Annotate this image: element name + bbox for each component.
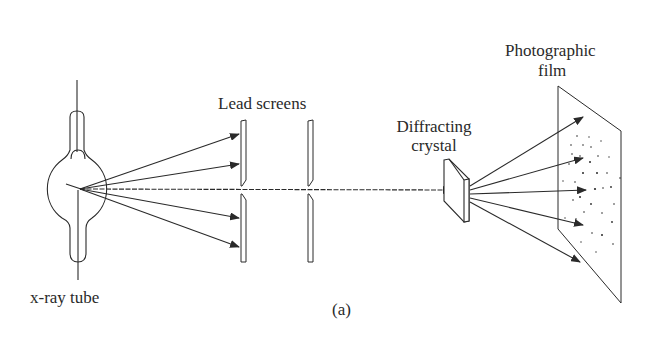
xray-diffraction-diagram: x-ray tube Lead screens Diffracting crys… (0, 0, 665, 360)
label-xray-tube: x-ray tube (30, 289, 99, 307)
label-crystal: crystal (386, 137, 482, 155)
cathode-cup (71, 150, 85, 159)
diffraction-spots (562, 135, 621, 253)
lead-screens-icon (241, 120, 313, 262)
diffracted-rays (470, 117, 586, 262)
screen-2-bottom (308, 194, 313, 262)
photographic-film-icon (558, 86, 621, 303)
ray-2 (80, 164, 239, 189)
label-lead-screens: Lead screens (218, 95, 306, 113)
screen-1-top (241, 120, 246, 186)
ray-4 (80, 189, 239, 247)
screen-1-bottom (241, 194, 246, 262)
diffracted-ray-2 (470, 158, 583, 190)
transmitted-beam (80, 189, 452, 190)
ray-1 (80, 134, 239, 189)
film-plane (558, 86, 621, 303)
xray-tube-icon (47, 80, 106, 280)
diffracted-ray-3 (470, 190, 586, 194)
label-diffracting: Diffracting (386, 118, 482, 136)
label-film: film (538, 62, 566, 80)
diffracting-crystal-icon (444, 159, 469, 222)
screen-2-top (308, 120, 313, 186)
label-photographic: Photographic (505, 42, 596, 60)
figure-caption: (a) (332, 301, 351, 319)
diffracted-ray-1 (470, 117, 583, 186)
crystal-front (464, 179, 469, 222)
